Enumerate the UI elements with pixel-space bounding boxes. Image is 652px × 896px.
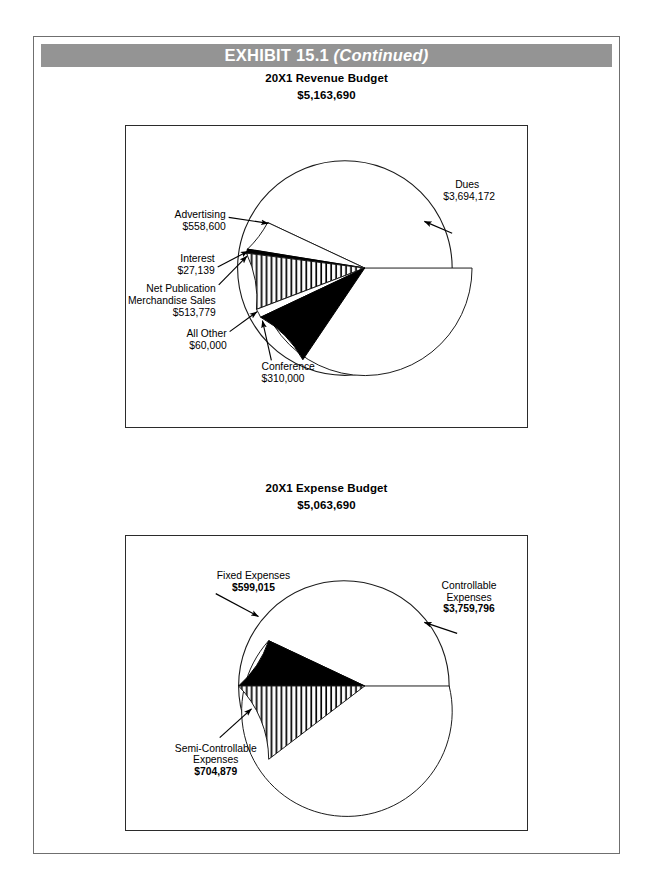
interest-callout-label: Interest $27,139 <box>177 253 215 276</box>
net-publication-label-line1: Net Publication <box>146 283 216 294</box>
exhibit-title-text: EXHIBIT 15.1 (Continued) <box>225 46 429 65</box>
fixed-expenses-callout-label: Fixed Expenses $599,015 <box>217 570 290 593</box>
revenue-budget-heading: 20X1 Revenue Budget $5,163,690 <box>41 70 612 104</box>
net-publication-label-value: $513,779 <box>173 307 216 318</box>
conference-label-value: $310,000 <box>261 373 304 384</box>
net-publication-label-line2: Merchandise Sales <box>128 295 216 306</box>
revenue-budget-total: $5,163,690 <box>41 87 612 104</box>
dues-callout-label: Dues $3,694,172 <box>443 179 495 202</box>
semi-controllable-label-line1: Semi-Controllable <box>175 743 257 754</box>
expense-pie-chart: Fixed Expenses $599,015 Semi-Controllabl… <box>126 536 527 830</box>
expense-budget-total: $5,063,690 <box>41 497 612 514</box>
fixed-expenses-label-value: $599,015 <box>232 582 275 593</box>
revenue-budget-title: 20X1 Revenue Budget <box>41 70 612 87</box>
conference-callout-label: Conference $310,000 <box>261 361 315 384</box>
expense-budget-heading: 20X1 Expense Budget $5,063,690 <box>41 480 612 514</box>
interest-label-name: Interest <box>180 253 215 264</box>
controllable-callout-label: Controllable Expenses $3,759,796 <box>442 580 497 615</box>
revenue-pie-chart: Advertising $558,600 Interest $27,139 Ne… <box>126 126 527 427</box>
all-other-callout-label: All Other $60,000 <box>186 328 227 351</box>
controllable-label-line1: Controllable <box>442 580 497 591</box>
exhibit-title-continued: (Continued) <box>334 46 429 64</box>
all-other-label-value: $60,000 <box>189 340 227 351</box>
exhibit-title-main: EXHIBIT 15.1 <box>225 46 329 64</box>
fixed-expenses-callout-arrow <box>216 594 259 617</box>
dues-label-value: $3,694,172 <box>443 191 495 202</box>
semi-controllable-callout-label: Semi-Controllable Expenses $704,879 <box>175 743 257 778</box>
all-other-label-name: All Other <box>186 328 227 339</box>
semi-controllable-label-line2: Expenses <box>193 754 238 765</box>
net-publication-callout-label: Net Publication Merchandise Sales $513,7… <box>128 283 216 318</box>
controllable-label-line2: Expenses <box>446 592 491 603</box>
controllable-label-value: $3,759,796 <box>443 603 495 614</box>
exhibit-title-banner: EXHIBIT 15.1 (Continued) <box>41 44 612 67</box>
advertising-label-value: $558,600 <box>183 221 226 232</box>
advertising-callout-label: Advertising $558,600 <box>175 209 226 232</box>
semi-controllable-label-value: $704,879 <box>194 766 237 777</box>
advertising-label-name: Advertising <box>175 209 226 220</box>
conference-label-name: Conference <box>261 361 315 372</box>
fixed-expenses-label-name: Fixed Expenses <box>217 570 290 581</box>
interest-label-value: $27,139 <box>177 265 215 276</box>
expense-budget-title: 20X1 Expense Budget <box>41 480 612 497</box>
revenue-pie-chart-container: Advertising $558,600 Interest $27,139 Ne… <box>125 125 528 428</box>
expense-pie-chart-container: Fixed Expenses $599,015 Semi-Controllabl… <box>125 535 528 831</box>
dues-label-name: Dues <box>455 179 479 190</box>
